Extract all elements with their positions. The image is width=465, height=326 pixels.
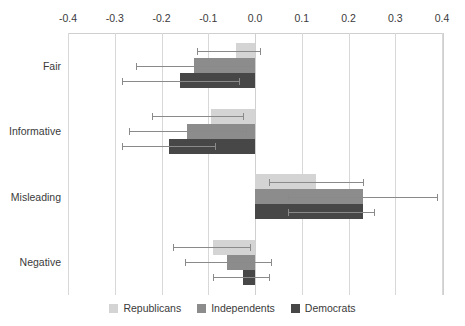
- error-bar-cap: [363, 179, 364, 186]
- error-bar-cap: [269, 179, 270, 186]
- error-bar-cap: [250, 244, 251, 251]
- legend-item[interactable]: Democrats: [291, 302, 356, 314]
- error-bar: [129, 131, 246, 132]
- error-bar: [288, 197, 438, 198]
- x-axis-tick-label: 0.4: [435, 12, 450, 24]
- error-bar-cap: [213, 274, 214, 281]
- legend-item[interactable]: Republicans: [109, 302, 181, 314]
- gridline: [302, 33, 303, 295]
- gridline: [68, 33, 69, 295]
- error-bar-cap: [136, 63, 137, 70]
- y-axis-labels: FairInformativeMisleadingNegative: [0, 33, 61, 295]
- error-bar-cap: [437, 194, 438, 201]
- error-bar-cap: [288, 194, 289, 201]
- error-bar: [173, 247, 250, 248]
- error-bar-cap: [152, 113, 153, 120]
- x-axis-tick-label: -0.2: [152, 12, 170, 24]
- error-bar: [288, 212, 374, 213]
- legend: RepublicansIndependentsDemocrats: [0, 302, 465, 314]
- y-axis-label: Informative: [9, 125, 61, 137]
- error-bar-cap: [243, 113, 244, 120]
- y-axis-label: Negative: [20, 256, 61, 268]
- legend-swatch-icon: [197, 304, 206, 313]
- gridline: [395, 33, 396, 295]
- gridline: [162, 33, 163, 295]
- error-bar-cap: [185, 259, 186, 266]
- legend-swatch-icon: [109, 304, 118, 313]
- error-bar: [122, 146, 216, 147]
- error-bar-cap: [246, 128, 247, 135]
- error-bar-cap: [288, 209, 289, 216]
- x-axis-tick-label: 0.3: [388, 12, 403, 24]
- error-bar: [185, 262, 271, 263]
- error-bar: [136, 66, 253, 67]
- error-bar-cap: [271, 259, 272, 266]
- error-bar-cap: [122, 143, 123, 150]
- x-axis-tick-label: -0.3: [106, 12, 124, 24]
- x-axis-tick-label: 0.1: [294, 12, 309, 24]
- error-bar-cap: [253, 63, 254, 70]
- gridline: [255, 33, 256, 295]
- error-bar: [152, 116, 243, 117]
- error-bar-cap: [129, 128, 130, 135]
- error-bar-cap: [260, 48, 261, 55]
- error-bar-cap: [215, 143, 216, 150]
- error-bar-cap: [122, 78, 123, 85]
- plot-area: [68, 33, 444, 295]
- error-bar: [213, 277, 269, 278]
- error-bar: [197, 51, 260, 52]
- error-bar-cap: [173, 244, 174, 251]
- y-axis-label: Misleading: [11, 191, 61, 203]
- bar-chart: -0.4-0.3-0.2-0.10.00.10.20.30.4 FairInfo…: [0, 0, 465, 326]
- legend-label: Republicans: [123, 302, 181, 314]
- legend-swatch-icon: [291, 304, 300, 313]
- error-bar-cap: [197, 48, 198, 55]
- error-bar-cap: [374, 209, 375, 216]
- x-axis-tick-label: -0.4: [59, 12, 77, 24]
- gridline: [349, 33, 350, 295]
- legend-label: Democrats: [305, 302, 356, 314]
- x-axis-tick-label: 0.0: [248, 12, 263, 24]
- x-axis-tick-label: 0.2: [341, 12, 356, 24]
- gridline: [442, 33, 443, 295]
- error-bar-cap: [269, 274, 270, 281]
- legend-item[interactable]: Independents: [197, 302, 275, 314]
- x-axis-tick-label: -0.1: [199, 12, 217, 24]
- error-bar-cap: [239, 78, 240, 85]
- error-bar: [122, 81, 239, 82]
- y-axis-label: Fair: [43, 60, 61, 72]
- legend-label: Independents: [211, 302, 275, 314]
- error-bar: [269, 182, 363, 183]
- gridline: [115, 33, 116, 295]
